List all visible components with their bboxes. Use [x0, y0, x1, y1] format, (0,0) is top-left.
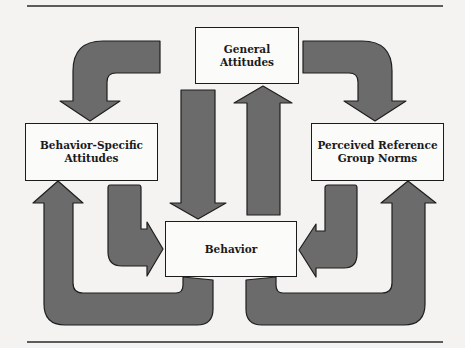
arrow-general-to-behavior-specific-icon [60, 41, 160, 121]
arrow-behavior-to-general-icon [234, 86, 292, 215]
arrow-perceived-to-behavior-icon [299, 185, 357, 277]
node-behavior-label: Behavior [205, 243, 258, 256]
node-behavior-specific-attitudes: Behavior-Specific Attitudes [25, 123, 158, 181]
node-perceived-reference-group-norms: Perceived Reference Group Norms [311, 123, 444, 181]
node-perceived-reference-group-norms-label: Perceived Reference Group Norms [317, 139, 437, 165]
arrow-general-to-behavior-icon [170, 90, 226, 219]
arrow-behavior-specific-to-behavior-icon [108, 185, 163, 276]
node-general-attitudes: General Attitudes [195, 27, 299, 84]
diagram-canvas: General Attitudes Behavior-Specific Atti… [0, 0, 465, 348]
node-general-attitudes-label: General Attitudes [220, 43, 274, 69]
arrow-general-to-perceived-icon [303, 41, 406, 121]
node-behavior: Behavior [165, 221, 297, 277]
node-behavior-specific-attitudes-label: Behavior-Specific Attitudes [40, 139, 143, 165]
